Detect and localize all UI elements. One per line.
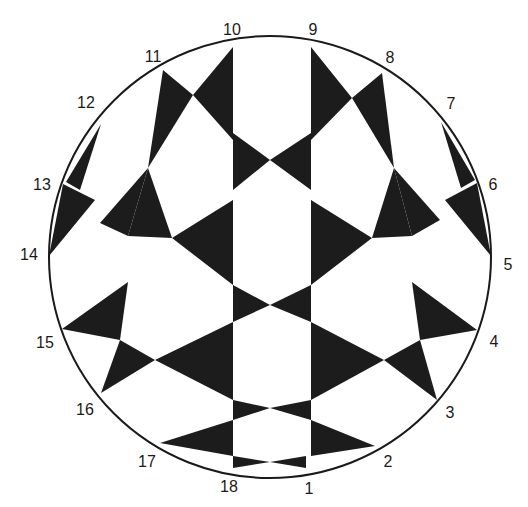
black-triangle <box>445 183 491 256</box>
black-triangle <box>311 47 352 140</box>
black-triangle <box>193 47 233 140</box>
black-triangles <box>49 47 491 468</box>
black-triangle <box>352 73 394 168</box>
black-triangle <box>62 282 128 340</box>
point-label-1: 1 <box>305 480 314 497</box>
black-triangle <box>233 400 270 420</box>
black-triangle <box>233 285 270 322</box>
black-triangle <box>270 400 311 420</box>
black-triangle <box>270 133 311 190</box>
point-label-9: 9 <box>309 21 318 38</box>
point-label-13: 13 <box>33 176 51 193</box>
black-triangle <box>311 322 384 400</box>
black-triangle <box>101 340 155 393</box>
point-label-4: 4 <box>490 333 499 350</box>
star-pattern-diagram: 123456789101112131415161718 <box>0 0 528 507</box>
black-triangle <box>233 133 270 190</box>
point-label-7: 7 <box>447 95 456 112</box>
outer-circle <box>49 36 491 478</box>
black-triangle <box>160 420 233 456</box>
black-triangle <box>384 340 437 400</box>
point-label-14: 14 <box>20 246 38 263</box>
point-label-8: 8 <box>386 49 395 66</box>
black-triangle <box>233 456 270 468</box>
black-triangle <box>148 70 193 168</box>
black-triangle <box>441 122 475 188</box>
point-label-12: 12 <box>77 94 95 111</box>
black-triangle <box>311 200 372 285</box>
point-label-16: 16 <box>76 401 94 418</box>
point-label-10: 10 <box>223 21 241 38</box>
black-triangle <box>155 322 233 400</box>
point-label-18: 18 <box>220 478 238 495</box>
point-label-15: 15 <box>36 334 54 351</box>
black-triangle <box>311 420 375 456</box>
point-label-2: 2 <box>384 453 393 470</box>
black-triangle <box>172 200 233 285</box>
black-triangle <box>412 282 477 340</box>
point-label-6: 6 <box>489 176 498 193</box>
black-triangle <box>270 285 311 322</box>
black-triangle <box>49 184 95 256</box>
point-label-17: 17 <box>138 453 156 470</box>
black-triangle <box>66 124 101 190</box>
black-triangle <box>270 456 306 468</box>
point-labels: 123456789101112131415161718 <box>20 21 512 497</box>
point-label-5: 5 <box>504 256 513 273</box>
point-label-3: 3 <box>446 404 455 421</box>
point-label-11: 11 <box>145 48 162 65</box>
